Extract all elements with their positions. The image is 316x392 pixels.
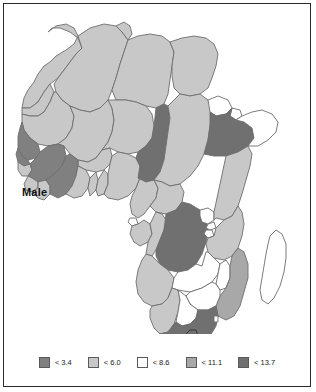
legend-label-2: < 8.6 <box>153 358 170 367</box>
legend-swatch-3 <box>186 357 197 368</box>
country-uganda[interactable] <box>200 208 214 224</box>
country-madagascar[interactable] <box>260 230 286 304</box>
country-swaziland[interactable] <box>214 316 218 322</box>
figure-frame: Male < 3.4 < 6.0 < 8.6 < 11.1 < 13.7 <box>3 3 311 387</box>
africa-choropleth-map <box>4 4 310 334</box>
legend-swatch-4 <box>238 357 249 368</box>
legend-items: < 3.4 < 6.0 < 8.6 < 11.1 < 13.7 <box>39 357 275 368</box>
country-egypt[interactable] <box>170 36 218 96</box>
legend-item-4[interactable]: < 13.7 <box>238 357 275 368</box>
legend-item-1[interactable]: < 6.0 <box>88 357 121 368</box>
legend: < 3.4 < 6.0 < 8.6 < 11.1 < 13.7 <box>4 338 310 386</box>
legend-label-0: < 3.4 <box>55 358 72 367</box>
legend-swatch-2 <box>137 357 148 368</box>
legend-label-3: < 11.1 <box>202 358 223 367</box>
legend-label-1: < 6.0 <box>104 358 121 367</box>
legend-swatch-1 <box>88 357 99 368</box>
legend-item-2[interactable]: < 8.6 <box>137 357 170 368</box>
panel-label: Male <box>22 186 47 198</box>
map-area <box>4 4 310 334</box>
legend-item-3[interactable]: < 11.1 <box>186 357 223 368</box>
legend-label-4: < 13.7 <box>254 358 275 367</box>
legend-item-0[interactable]: < 3.4 <box>39 357 72 368</box>
country-kenya[interactable] <box>214 146 252 220</box>
legend-swatch-0 <box>39 357 50 368</box>
